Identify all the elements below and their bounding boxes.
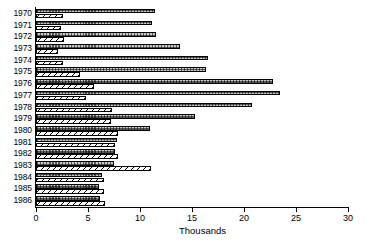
plot-area — [36, 8, 348, 207]
x-tick-mark — [296, 208, 297, 212]
bar-series-2 — [36, 178, 104, 183]
x-tick-label: 20 — [231, 213, 257, 223]
y-axis-category-labels: 1970197119721973197419751976197719781979… — [0, 8, 34, 207]
y-axis-label: 1984 — [0, 173, 32, 182]
bar-series-1 — [36, 173, 102, 178]
x-tick-label: 30 — [335, 213, 361, 223]
y-axis-label: 1976 — [0, 79, 32, 88]
bar-series-1 — [36, 44, 180, 49]
x-tick-mark — [244, 208, 245, 212]
bar-series-2 — [36, 154, 118, 159]
x-tick-label: 25 — [283, 213, 309, 223]
bar-series-2 — [36, 61, 63, 66]
x-tick-mark — [192, 208, 193, 212]
bar-chart: 1970197119721973197419751976197719781979… — [0, 0, 371, 245]
x-axis-line — [35, 207, 349, 208]
bar-series-1 — [36, 9, 155, 14]
y-axis-label: 1972 — [0, 32, 32, 41]
y-axis-label: 1979 — [0, 114, 32, 123]
x-tick-mark — [140, 208, 141, 212]
bar-series-2 — [36, 166, 151, 171]
y-axis-label: 1977 — [0, 91, 32, 100]
bar-series-1 — [36, 67, 206, 72]
bar-series-1 — [36, 21, 152, 26]
y-axis-label: 1978 — [0, 103, 32, 112]
bar-series-1 — [36, 196, 100, 201]
y-axis-label: 1973 — [0, 44, 32, 53]
y-axis-label: 1981 — [0, 138, 32, 147]
bar-series-1 — [36, 79, 273, 84]
bar-series-2 — [36, 189, 104, 194]
bar-series-2 — [36, 119, 111, 124]
x-tick-label: 10 — [127, 213, 153, 223]
bar-series-1 — [36, 184, 99, 189]
bar-series-2 — [36, 84, 94, 89]
x-axis-title-text: Thousands — [145, 225, 226, 236]
y-axis-label: 1974 — [0, 56, 32, 65]
x-tick-mark — [88, 208, 89, 212]
x-tick-mark — [36, 208, 37, 212]
bar-series-2 — [36, 14, 63, 19]
bar-series-1 — [36, 149, 115, 154]
bar-series-2 — [36, 108, 112, 113]
bar-series-2 — [36, 201, 105, 206]
bar-series-1 — [36, 138, 117, 143]
bar-series-2 — [36, 26, 61, 31]
y-axis-label: 1970 — [0, 9, 32, 18]
bar-series-2 — [36, 37, 64, 42]
bar-series-2 — [36, 143, 115, 148]
y-axis-label: 1975 — [0, 67, 32, 76]
bar-series-1 — [36, 126, 150, 131]
bar-series-1 — [36, 114, 195, 119]
y-axis-label: 1982 — [0, 149, 32, 158]
x-axis-title: Thousands — [0, 225, 371, 236]
x-tick-mark — [348, 208, 349, 212]
bar-series-1 — [36, 103, 252, 108]
bar-series-2 — [36, 96, 86, 101]
y-axis-label: 1980 — [0, 126, 32, 135]
bar-series-1 — [36, 56, 208, 61]
bar-series-1 — [36, 91, 280, 96]
y-axis-label: 1986 — [0, 196, 32, 205]
bar-series-2 — [36, 131, 118, 136]
y-axis-label: 1983 — [0, 161, 32, 170]
x-tick-label: 15 — [179, 213, 205, 223]
y-axis-label: 1971 — [0, 21, 32, 30]
bar-series-2 — [36, 49, 58, 54]
bar-series-1 — [36, 161, 114, 166]
bar-series-2 — [36, 72, 80, 77]
bar-series-1 — [36, 32, 156, 37]
y-axis-label: 1985 — [0, 184, 32, 193]
x-tick-label: 0 — [23, 213, 49, 223]
x-tick-label: 5 — [75, 213, 101, 223]
